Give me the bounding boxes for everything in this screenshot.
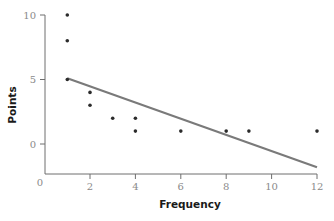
axes: 051024681012 bbox=[23, 10, 323, 193]
origin-label: 0 bbox=[37, 177, 43, 188]
scatter-chart: 051024681012 Frequency Points 0 bbox=[0, 0, 334, 221]
data-point bbox=[66, 13, 70, 17]
data-point bbox=[134, 129, 138, 133]
regression-line bbox=[67, 78, 317, 167]
data-point bbox=[247, 129, 251, 133]
data-point bbox=[111, 116, 115, 120]
x-tick-label: 10 bbox=[265, 181, 278, 192]
y-tick-label: 5 bbox=[30, 74, 36, 85]
data-points bbox=[66, 13, 319, 133]
x-axis-title: Frequency bbox=[159, 198, 221, 210]
x-tick-label: 12 bbox=[311, 181, 324, 192]
x-tick-label: 4 bbox=[132, 181, 138, 192]
data-point bbox=[134, 116, 138, 120]
trend-line bbox=[67, 78, 317, 167]
x-tick-label: 2 bbox=[87, 181, 93, 192]
data-point bbox=[179, 129, 183, 133]
y-tick-label: 0 bbox=[30, 139, 36, 150]
data-point bbox=[88, 104, 92, 108]
data-point bbox=[66, 78, 70, 82]
data-point bbox=[315, 129, 319, 133]
y-axis-title: Points bbox=[6, 86, 18, 123]
data-point bbox=[66, 39, 70, 43]
x-tick-label: 8 bbox=[223, 181, 229, 192]
data-point bbox=[224, 129, 228, 133]
data-point bbox=[88, 91, 92, 95]
y-tick-label: 10 bbox=[23, 10, 36, 21]
x-tick-label: 6 bbox=[178, 181, 184, 192]
axis-labels: Frequency Points 0 bbox=[6, 86, 221, 210]
